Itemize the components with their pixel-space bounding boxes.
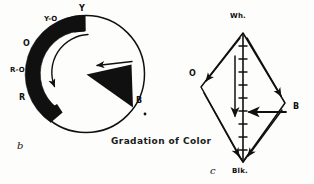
drawing-canvas: [0, 0, 314, 184]
wheel-curved-arrow: [52, 35, 88, 87]
label-black-vertex: Blk.: [232, 168, 248, 175]
label-red-orange: R-O: [10, 67, 25, 74]
wheel-black-wedge: [87, 65, 134, 108]
label-blue-vertex: B: [293, 103, 299, 111]
arrow-white-to-blue: [247, 38, 281, 96]
figure-page: Y Y-O O R-O R B b Gradation of Color Wh.…: [0, 0, 314, 184]
label-orange: O: [23, 40, 30, 48]
arrow-orange-to-black: [204, 93, 239, 156]
arrow-blue-to-black: [248, 110, 282, 156]
value-diamond-group: [201, 33, 286, 162]
figure-caption: Gradation of Color: [111, 136, 211, 146]
label-yellow: Y: [79, 5, 85, 13]
label-white: Wh.: [230, 13, 246, 20]
label-orange-vertex: O: [189, 70, 196, 78]
label-blue: B: [136, 97, 142, 105]
figure-label-c: c: [210, 166, 216, 176]
ink-dot: [144, 113, 147, 116]
figure-label-b: b: [17, 141, 24, 151]
band-notch-top: [74, 16, 84, 33]
label-yellow-orange: Y-O: [44, 16, 58, 23]
color-wheel-group: [25, 15, 146, 132]
label-red: R: [19, 94, 25, 102]
wheel-straight-arrow: [97, 62, 132, 66]
